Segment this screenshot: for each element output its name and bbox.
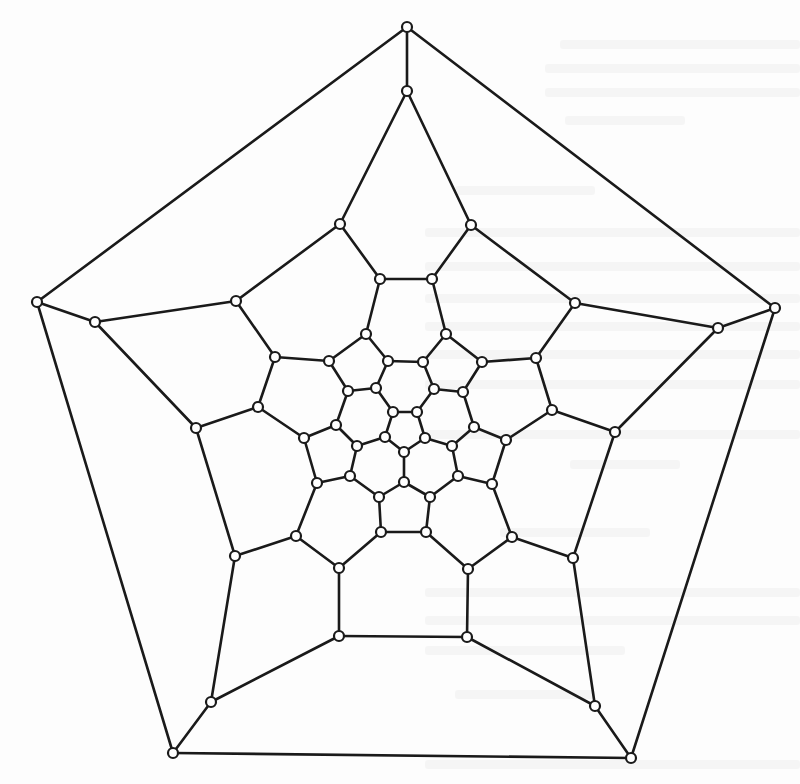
graph-edge (296, 483, 317, 536)
graph-edge (95, 301, 236, 322)
scanned-page (0, 0, 800, 784)
graph-edge (296, 536, 339, 568)
graph-edge (211, 636, 339, 702)
graph-vertex (458, 387, 468, 397)
graph-vertex (507, 532, 517, 542)
graph-vertex (291, 531, 301, 541)
graph-vertex (374, 492, 384, 502)
graph-vertex (402, 22, 412, 32)
graph-vertex (380, 432, 390, 442)
graph-edge (432, 279, 446, 334)
graph-edges (37, 27, 775, 758)
graph-edge (432, 225, 471, 279)
graph-vertex (32, 297, 42, 307)
graph-vertex (388, 407, 398, 417)
graph-vertex (487, 479, 497, 489)
graph-edge (275, 357, 329, 361)
graph-edge (467, 637, 595, 706)
graph-vertex (299, 433, 309, 443)
graph-vertex (590, 701, 600, 711)
graph-edge (258, 357, 275, 407)
graph-vertex (626, 753, 636, 763)
graph-vertex (610, 427, 620, 437)
graph-vertex (253, 402, 263, 412)
graph-vertex (568, 553, 578, 563)
graph-edge (631, 308, 775, 758)
graph-vertex (427, 274, 437, 284)
graph-edge (37, 302, 95, 322)
graph-vertex (463, 564, 473, 574)
graph-vertex (352, 441, 362, 451)
graph-vertex (335, 219, 345, 229)
graph-vertex (462, 632, 472, 642)
graph-edge (366, 279, 380, 334)
graph-edge (468, 537, 512, 569)
graph-edge (492, 440, 506, 484)
graph-vertex (90, 317, 100, 327)
graph-vertex (469, 422, 479, 432)
graph-vertex (425, 492, 435, 502)
graph-edge (536, 303, 575, 358)
graph-vertex (421, 527, 431, 537)
graph-vertex (168, 748, 178, 758)
graph-vertex (418, 357, 428, 367)
graph-vertex (312, 478, 322, 488)
graph-vertex (399, 447, 409, 457)
graph-vertex (429, 384, 439, 394)
graph-vertex (324, 356, 334, 366)
graph-edge (407, 91, 471, 225)
graph-edge (236, 301, 275, 357)
graph-vertex (371, 383, 381, 393)
graph-edge (173, 753, 631, 758)
graph-edge (211, 556, 235, 702)
graph-vertex (770, 303, 780, 313)
graph-edge (552, 410, 615, 432)
graph-edge (482, 358, 536, 362)
graph-edge (196, 428, 235, 556)
graph-edge (340, 224, 380, 279)
graph-vertex (501, 435, 511, 445)
graph-edge (536, 358, 552, 410)
graph-edge (573, 558, 595, 706)
graph-edge (95, 322, 196, 428)
graph-edge (235, 536, 296, 556)
graph-edge (615, 328, 718, 432)
graph-edge (304, 438, 317, 483)
graph-vertex (376, 527, 386, 537)
graph-vertex (206, 697, 216, 707)
graph-vertex (230, 551, 240, 561)
graph-vertex (547, 405, 557, 415)
graph-edge (573, 432, 615, 558)
graph-vertex (270, 352, 280, 362)
graph-vertex (447, 441, 457, 451)
graph-edge (340, 91, 407, 224)
graph-vertex (570, 298, 580, 308)
graph-edge (173, 702, 211, 753)
graph-vertex (331, 420, 341, 430)
graph-edge (407, 27, 775, 308)
graph-vertex (477, 357, 487, 367)
graph-vertex (453, 471, 463, 481)
graph-edge (196, 407, 258, 428)
graph-vertex (231, 296, 241, 306)
graph-vertex (399, 477, 409, 487)
graph-vertex (361, 329, 371, 339)
graph-vertex (345, 471, 355, 481)
graph-edge (446, 334, 482, 362)
fullerene-schlegel-diagram (0, 0, 800, 784)
graph-vertex (420, 433, 430, 443)
graph-edge (236, 224, 340, 301)
graph-vertex (713, 323, 723, 333)
graph-edge (37, 302, 173, 753)
graph-vertex (412, 407, 422, 417)
graph-vertex (383, 356, 393, 366)
graph-edge (506, 410, 552, 440)
graph-edge (575, 303, 718, 328)
graph-edge (329, 334, 366, 361)
graph-vertex (441, 329, 451, 339)
graph-vertex (191, 423, 201, 433)
graph-vertex (375, 274, 385, 284)
graph-edge (339, 636, 467, 637)
graph-edge (467, 569, 468, 637)
graph-vertex (343, 386, 353, 396)
